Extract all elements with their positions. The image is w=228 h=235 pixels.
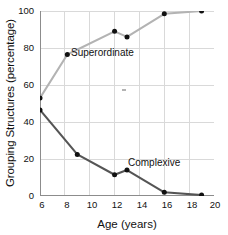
x-tick-label-20: 20 [205, 200, 225, 210]
chart-figure: Grouping Structures (percentage) 100 80 … [0, 0, 228, 235]
data-point-marker [125, 34, 130, 39]
x-tick-label-16: 16 [157, 200, 177, 210]
x-tick-label-14: 14 [132, 200, 152, 210]
data-point-marker [199, 11, 204, 14]
y-tick-label-60: 60 [8, 80, 34, 90]
y-axis-title: Grouping Structures (percentage) [4, 5, 16, 201]
data-point-marker [162, 11, 167, 16]
y-tick-label-80: 80 [8, 43, 34, 53]
plot-area [40, 11, 214, 196]
data-point-marker [75, 152, 80, 157]
series-line [40, 110, 202, 195]
x-tick-label-6: 6 [32, 200, 52, 210]
x-tick-label-10: 10 [82, 200, 102, 210]
data-point-marker [125, 168, 130, 173]
series-label-complexive: Complexive [128, 157, 180, 168]
data-point-marker [199, 193, 204, 196]
data-point-marker [112, 172, 117, 177]
y-tick-label-40: 40 [8, 117, 34, 127]
x-tick-label-12: 12 [107, 200, 127, 210]
x-axis-title: Age (years) [40, 218, 214, 230]
x-tick-label-18: 18 [182, 200, 202, 210]
image-artifact-speck [122, 89, 126, 91]
x-tick-label-8: 8 [57, 200, 77, 210]
data-point-marker [112, 29, 117, 34]
y-tick-label-20: 20 [8, 154, 34, 164]
data-point-marker [65, 52, 70, 57]
series-label-superordinate: Superordinate [71, 47, 134, 58]
data-point-marker [162, 190, 167, 195]
y-tick-label-0: 0 [8, 191, 34, 201]
y-tick-label-100: 100 [8, 6, 34, 16]
